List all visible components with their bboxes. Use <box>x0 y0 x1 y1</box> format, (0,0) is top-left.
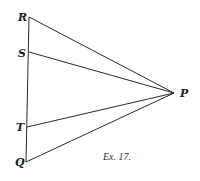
segment-rq <box>26 17 29 162</box>
segment-sp <box>29 52 174 93</box>
segment-rp <box>29 17 174 93</box>
segment-tp <box>27 93 174 127</box>
point-label-r: R <box>17 11 27 24</box>
segment-qp <box>26 93 174 162</box>
geometry-diagram: R S T Q P Ex. 17. <box>0 0 200 181</box>
figure-caption: Ex. 17. <box>102 151 131 162</box>
point-label-t: T <box>16 121 25 134</box>
point-label-p: P <box>179 87 189 100</box>
point-label-q: Q <box>15 156 25 169</box>
point-label-s: S <box>18 47 26 60</box>
